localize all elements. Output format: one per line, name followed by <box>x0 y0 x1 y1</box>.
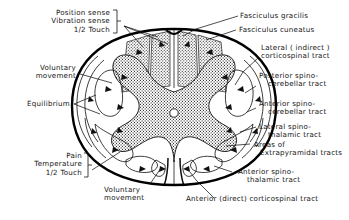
fraction-half-ventral: 1/2 <box>46 168 58 177</box>
label-pain-group: Pain Temperature 1/2 Touch <box>6 152 82 177</box>
label-anterior-spinocerebellar-line2: cerebellar tract <box>259 108 326 116</box>
label-lateral-corticospinal-line2: corticospinal tract <box>261 52 330 60</box>
label-voluntary-left-line2: movement <box>14 72 76 80</box>
label-extrapyramidal-tracts: Areas of Extrapyramidal tracts <box>254 141 342 158</box>
label-anterior-spinocerebellar-tract: Anterior spino- cerebellar tract <box>259 100 326 117</box>
label-fasciculus-cuneatus: Fasciculus cuneatus <box>239 26 314 34</box>
label-voluntary-bottom-line2: movement <box>104 194 168 202</box>
label-half-touch-ventral: 1/2 Touch <box>6 169 82 177</box>
label-lateral-corticospinal-tract: Lateral ( indirect ) corticospinal tract <box>261 44 330 61</box>
label-lateral-spinothalamic-tract: Lateral spino- thalamic tract <box>259 123 321 140</box>
fraction-half-dorsal: 1/2 <box>74 25 86 34</box>
label-half-touch-dorsal: 1/2 Touch <box>28 26 110 34</box>
label-fasciculus-gracilis: Fasciculus gracilis <box>240 12 308 20</box>
label-touch-dorsal: Touch <box>88 25 110 34</box>
label-voluntary-movement-bottom: Voluntary movement <box>104 186 168 203</box>
label-anterior-spinothalamic-line2: thalamic tract <box>238 176 300 184</box>
spinal-cord-diagram: Position sense Vibration sense 1/2 Touch… <box>0 0 349 220</box>
label-lateral-spinothalamic-line2: thalamic tract <box>259 131 321 139</box>
label-anterior-spinothalamic-tract: Anterior spino- thalamic tract <box>238 168 300 185</box>
label-equilibrium: Equilibrium <box>8 100 70 108</box>
label-position-sense-group: Position sense Vibration sense 1/2 Touch <box>28 9 110 34</box>
label-posterior-spinocerebellar-line2: cerebellar tract <box>259 80 326 88</box>
label-extrapyramidal-line2: Extrapyramidal tracts <box>254 149 342 157</box>
label-anterior-corticospinal-tract: Anterior (direct) corticospinal tract <box>186 195 318 203</box>
label-voluntary-movement-left: Voluntary movement <box>14 64 76 81</box>
label-posterior-spinocerebellar-tract: Posterior spino- cerebellar tract <box>259 72 326 89</box>
label-touch-ventral: Touch <box>60 168 82 177</box>
